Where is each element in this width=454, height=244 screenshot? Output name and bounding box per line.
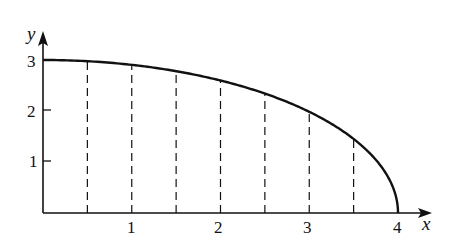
- x-tick-label-3: 3: [303, 218, 312, 237]
- y-tick-label-3: 3: [27, 52, 36, 71]
- x-tick-label-2: 2: [214, 218, 223, 237]
- x-tick-label-1: 1: [127, 218, 136, 237]
- x-tick-label-4: 4: [393, 218, 402, 237]
- chart: y x 3 2 1 1 2 3 4: [0, 0, 454, 244]
- y-axis-label: y: [25, 23, 36, 44]
- y-tick-label-1: 1: [29, 152, 38, 171]
- dashed-verticals: [87, 61, 353, 213]
- y-tick-label-2: 2: [27, 102, 36, 121]
- x-axis-label: x: [421, 213, 431, 234]
